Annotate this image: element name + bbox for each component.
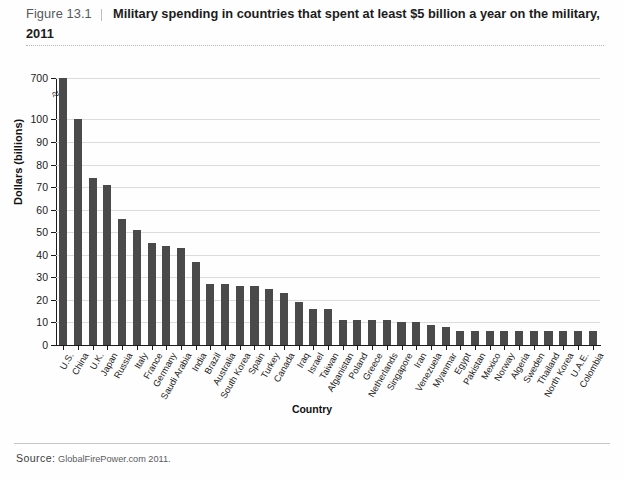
gridline (56, 78, 600, 79)
x-axis-tick (416, 345, 417, 350)
x-axis-tick (166, 345, 167, 350)
x-axis-tick (431, 345, 432, 350)
bar (442, 327, 450, 345)
x-axis-tick (93, 345, 94, 350)
bar (177, 248, 185, 345)
x-axis-tick (122, 345, 123, 350)
x-axis-tick (563, 345, 564, 350)
x-axis-tick (284, 345, 285, 350)
y-axis-tick (51, 142, 56, 143)
source-label: Source: (16, 452, 55, 464)
bar (412, 322, 420, 345)
y-axis-tick (51, 165, 56, 166)
y-axis-label: 50 (36, 226, 48, 238)
x-axis-tick (152, 345, 153, 350)
bar (515, 331, 523, 345)
x-axis-tick (460, 345, 461, 350)
y-axis-tick (51, 210, 56, 211)
source-text: GlobalFirePower.com 2011. (58, 454, 171, 464)
bar (148, 243, 156, 345)
bar (574, 331, 582, 345)
plot-area: 0102030405060708090100700U.S.ChinaU.K.Ja… (56, 78, 600, 345)
bar (456, 331, 464, 345)
y-axis-tick (51, 300, 56, 301)
x-axis-tick (254, 345, 255, 350)
x-axis-tick (210, 345, 211, 350)
x-axis-tick (578, 345, 579, 350)
bar (118, 219, 126, 345)
bar (530, 331, 538, 345)
x-axis-tick (387, 345, 388, 350)
x-axis-tick (107, 345, 108, 350)
x-axis-tick (343, 345, 344, 350)
x-axis-tick (357, 345, 358, 350)
bar (471, 331, 479, 345)
y-axis-label: 90 (36, 136, 48, 148)
bar (559, 331, 567, 345)
y-axis-title: Dollars (billions) (12, 119, 24, 205)
x-axis-tick (534, 345, 535, 350)
y-axis-label: 40 (36, 249, 48, 261)
y-axis-tick (51, 232, 56, 233)
figure-number: Figure 13.1 (26, 6, 92, 21)
gridline (56, 210, 600, 211)
bar (486, 331, 494, 345)
x-axis-tick (269, 345, 270, 350)
bar-chart: Dollars (billions) 010203040506070809010… (0, 55, 624, 410)
x-axis-title: Country (0, 403, 624, 415)
y-axis-label: 80 (36, 159, 48, 171)
y-axis-tick (51, 277, 56, 278)
y-axis-label: 20 (36, 294, 48, 306)
bar (74, 119, 82, 345)
bar (221, 284, 229, 345)
y-axis-tick (51, 345, 56, 346)
bar (309, 309, 317, 345)
figure-title: Military spending in countries that spen… (26, 6, 600, 41)
header-dotted-rule (26, 45, 604, 46)
bar (383, 320, 391, 345)
x-axis-tick (490, 345, 491, 350)
gridline (56, 119, 600, 120)
gridline (56, 142, 600, 143)
y-axis-label: 60 (36, 204, 48, 216)
x-axis-tick (313, 345, 314, 350)
bar (206, 284, 214, 345)
source-line: Source: GlobalFirePower.com 2011. (16, 452, 171, 464)
y-axis-label: 0 (42, 339, 48, 351)
bar (103, 185, 111, 345)
x-axis-tick (475, 345, 476, 350)
x-axis-tick (63, 345, 64, 350)
y-axis-tick (51, 187, 56, 188)
gridline (56, 187, 600, 188)
y-axis-tick (51, 78, 56, 79)
y-axis-label: 700 (30, 72, 48, 84)
x-axis-tick (181, 345, 182, 350)
x-axis-tick (593, 345, 594, 350)
bar (162, 246, 170, 345)
bar (265, 289, 273, 345)
bar (280, 293, 288, 345)
y-axis-label: 10 (36, 316, 48, 328)
bar (368, 320, 376, 345)
bar (589, 331, 597, 345)
bar (89, 178, 97, 345)
x-axis-tick (137, 345, 138, 350)
bar (192, 262, 200, 345)
x-axis-tick (402, 345, 403, 350)
y-axis-label: 70 (36, 181, 48, 193)
y-axis-label: 100 (30, 113, 48, 125)
bar (500, 331, 508, 345)
gridline (56, 165, 600, 166)
bar (353, 320, 361, 345)
bar (427, 325, 435, 345)
bar (250, 286, 258, 345)
x-axis-tick (504, 345, 505, 350)
bar (59, 78, 67, 345)
bar (544, 331, 552, 345)
x-axis-tick (299, 345, 300, 350)
x-axis-tick (372, 345, 373, 350)
x-axis-tick (549, 345, 550, 350)
y-axis-tick (51, 255, 56, 256)
figure-headline: Figure 13.1 Military spending in countri… (26, 4, 604, 44)
y-axis-tick (51, 119, 56, 120)
